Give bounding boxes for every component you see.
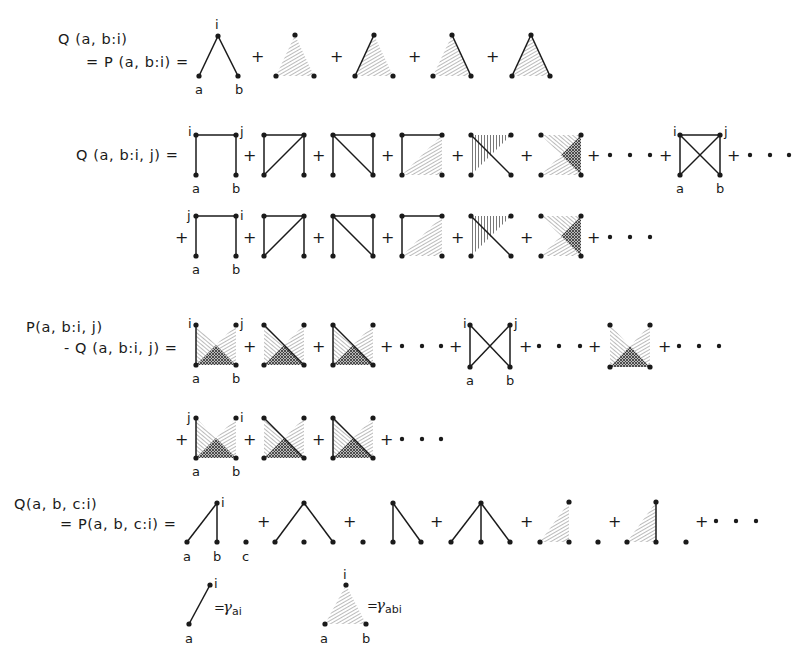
svg-text:+: +: [243, 430, 256, 449]
eq2b-term-2: [264, 216, 304, 256]
svg-text:+: +: [520, 512, 533, 531]
eq4-term-2: [275, 503, 333, 542]
svg-text:+: +: [520, 228, 533, 247]
svg-text:c: c: [242, 549, 249, 564]
eq3-term-2: [264, 325, 304, 365]
svg-text:+: +: [430, 512, 443, 531]
eq2b-term-5: [471, 216, 511, 256]
eq3-term-shaded: [610, 325, 650, 367]
eq4-term-5: [540, 502, 569, 542]
eq3b-term-1: [196, 418, 236, 458]
eq2-term-3: [333, 135, 373, 175]
svg-text:+: +: [175, 228, 188, 247]
svg-text:+: +: [588, 337, 601, 356]
svg-text:+: +: [312, 146, 325, 165]
svg-text:b: b: [235, 82, 243, 97]
svg-text:j: j: [513, 316, 518, 331]
svg-text:+: +: [659, 146, 672, 165]
svg-text:b: b: [232, 262, 240, 277]
svg-text:b: b: [213, 549, 221, 564]
svg-text:+: +: [343, 512, 356, 531]
svg-text:+: +: [727, 146, 740, 165]
svg-text:ai: ai: [232, 605, 242, 618]
svg-text:b: b: [232, 371, 240, 386]
svg-text:a: a: [185, 631, 193, 646]
eq1-term-4-triangle: [433, 35, 471, 76]
svg-text:i: i: [221, 495, 225, 510]
svg-text:+: +: [243, 146, 256, 165]
svg-text:+: +: [587, 228, 600, 247]
svg-text:b: b: [716, 181, 724, 196]
eq3b-term-2: [264, 418, 304, 458]
svg-text:+: +: [312, 337, 325, 356]
eq1-term-5-triangle: [512, 35, 550, 76]
svg-text:+: +: [257, 512, 270, 531]
eq2b-term-3: [333, 216, 373, 256]
svg-text:i: i: [240, 410, 244, 425]
svg-text:+: +: [312, 430, 325, 449]
eq2-term-7-complete: [680, 135, 720, 175]
svg-text:i: i: [463, 316, 467, 331]
svg-text:+: +: [251, 47, 264, 66]
svg-text:+: +: [608, 512, 621, 531]
svg-text:i: i: [215, 17, 219, 32]
svg-text:b: b: [506, 373, 514, 388]
svg-text:+: +: [520, 146, 533, 165]
svg-text:a: a: [192, 464, 200, 479]
svg-text:a: a: [192, 371, 200, 386]
eq2b-term-6: [541, 216, 581, 256]
svg-text:i: i: [188, 316, 192, 331]
svg-text:a: a: [466, 373, 474, 388]
svg-text:+: +: [380, 430, 393, 449]
svg-text:j: j: [723, 124, 728, 139]
eq2b-term-4: [402, 216, 442, 256]
svg-text:+: +: [587, 146, 600, 165]
eq4-term-3: [393, 503, 421, 542]
svg-text:a: a: [192, 181, 200, 196]
svg-text:+: +: [243, 228, 256, 247]
eq2-term-2: [264, 135, 304, 175]
svg-text:i: i: [673, 124, 677, 139]
svg-text:+: +: [381, 146, 394, 165]
svg-text:+: +: [658, 337, 671, 356]
eq3-term-1: [196, 325, 236, 365]
svg-text:j: j: [239, 316, 244, 331]
legend-edge: [189, 585, 210, 624]
eq2-term-1: [196, 135, 236, 175]
svg-text:+: +: [312, 228, 325, 247]
svg-text:+: +: [451, 228, 464, 247]
plus-signs: ++++ ++++++++ +++++++ +++++++ ++++ +++++…: [175, 47, 740, 531]
svg-text:+: +: [381, 228, 394, 247]
svg-text:i: i: [240, 208, 244, 223]
svg-text:abi: abi: [385, 603, 402, 616]
svg-text:a: a: [320, 631, 328, 646]
svg-text:+: +: [408, 47, 421, 66]
svg-text:a: a: [183, 549, 191, 564]
eq3-term-bowtie: [470, 325, 510, 367]
legend-triangle-definition: = γ abi: [367, 596, 402, 616]
svg-text:+: +: [243, 337, 256, 356]
svg-text:+: +: [449, 337, 462, 356]
svg-text:+: +: [695, 512, 708, 531]
svg-text:+: +: [519, 337, 532, 356]
svg-text:a: a: [676, 181, 684, 196]
svg-text:b: b: [232, 464, 240, 479]
eq1-term-3-triangle: [355, 35, 393, 76]
svg-text:j: j: [239, 124, 244, 139]
eq2-term-4: [402, 135, 442, 175]
svg-text:+: +: [486, 47, 499, 66]
eq2-term-5: [471, 135, 511, 175]
svg-text:+: +: [330, 47, 343, 66]
svg-text:a: a: [195, 82, 203, 97]
eq4-term-6: [627, 502, 656, 542]
eq3b-term-3: [333, 418, 373, 458]
eq4-term-1: [187, 503, 217, 542]
svg-text:j: j: [186, 208, 191, 223]
legend-edge-definition: = γ ai: [214, 598, 242, 618]
svg-text:j: j: [186, 410, 191, 425]
eq1-term-2-triangle: [276, 35, 314, 76]
eq3-term-3: [333, 325, 373, 365]
eq2-term-6: [541, 135, 581, 175]
vertex-dots: [184, 32, 791, 626]
eq2b-term-1: [196, 216, 236, 256]
